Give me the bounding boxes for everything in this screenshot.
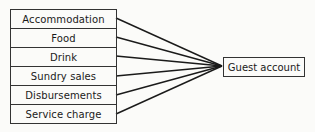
source-sundry-sales: Sundry sales bbox=[11, 67, 116, 86]
guest-account-box: Guest account bbox=[223, 57, 305, 77]
revenue-sources-stack: Accommodation Food Drink Sundry sales Di… bbox=[10, 9, 117, 124]
source-accommodation: Accommodation bbox=[11, 10, 116, 29]
source-service-charge: Service charge bbox=[11, 105, 116, 123]
source-food: Food bbox=[11, 29, 116, 48]
source-drink: Drink bbox=[11, 48, 116, 67]
source-disbursements: Disbursements bbox=[11, 86, 116, 105]
